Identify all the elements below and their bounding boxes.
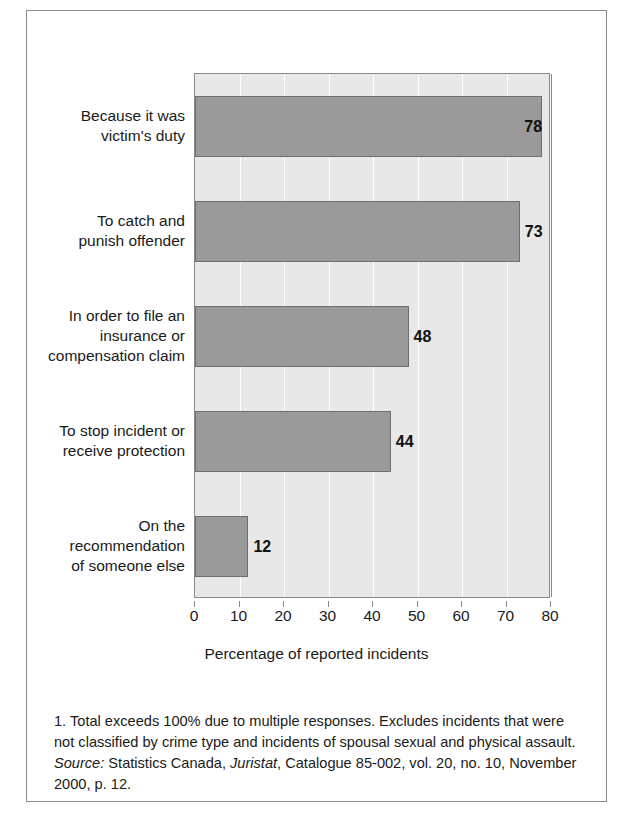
bar-value-label: 73 (520, 201, 543, 262)
category-label-line: On the (0, 516, 185, 536)
bar-band: 73 (195, 179, 549, 284)
bar[interactable] (195, 516, 248, 577)
bar[interactable] (195, 411, 391, 472)
x-tick-label: 50 (408, 607, 425, 625)
bar-value-label: 44 (391, 411, 414, 472)
x-tick-label: 10 (230, 607, 247, 625)
category-label: To stop incident orreceive protection (0, 421, 185, 461)
category-label-line: To stop incident or (0, 421, 185, 441)
bar-band: 48 (195, 284, 549, 389)
source-agency: Statistics Canada, (108, 755, 226, 771)
category-label-line: victim's duty (0, 126, 185, 146)
x-tick-label: 40 (363, 607, 380, 625)
category-label-line: insurance or (0, 326, 185, 346)
gridline-80 (551, 74, 552, 597)
category-label: To catch andpunish offender (0, 211, 185, 251)
bar-value-label: 78 (195, 96, 551, 157)
x-tick-label: 20 (274, 607, 291, 625)
footnote: 1. Total exceeds 100% due to multiple re… (54, 711, 584, 795)
footnote-text: Total exceeds 100% due to multiple respo… (54, 713, 576, 750)
bar[interactable] (195, 306, 409, 367)
figure-frame: 7873484412 Because it wasvictim's dutyTo… (26, 10, 607, 802)
x-tick-label: 60 (452, 607, 469, 625)
category-label-line: Because it was (0, 106, 185, 126)
category-label-line: of someone else (0, 556, 185, 576)
x-tick-label: 70 (497, 607, 514, 625)
source-label: Source: (54, 755, 104, 771)
category-label-line: To catch and (0, 211, 185, 231)
category-label-line: compensation claim (0, 346, 185, 366)
bar-band: 44 (195, 389, 549, 494)
category-label: Because it wasvictim's duty (0, 106, 185, 146)
publication-name: Juristat (230, 755, 277, 771)
category-label: In order to file aninsurance orcompensat… (0, 306, 185, 366)
bar[interactable] (195, 201, 520, 262)
bar-band: 12 (195, 494, 549, 599)
x-axis-tick-group: 01020304050607080 (194, 607, 550, 633)
plot-area: 7873484412 (194, 73, 550, 598)
category-label-line: punish offender (0, 231, 185, 251)
category-label-line: In order to file an (0, 306, 185, 326)
x-tick-label: 0 (190, 607, 199, 625)
bar-band: 78 (195, 74, 549, 179)
x-tick-label: 80 (541, 607, 558, 625)
category-label: On therecommendationof someone else (0, 516, 185, 576)
x-tick-label: 30 (319, 607, 336, 625)
chart-region: 7873484412 Because it wasvictim's dutyTo… (27, 11, 606, 671)
bar-value-label: 12 (248, 516, 271, 577)
bar-value-label: 48 (409, 306, 432, 367)
x-axis-title: Percentage of reported incidents (27, 645, 606, 663)
category-label-line: receive protection (0, 441, 185, 461)
category-label-line: recommendation (0, 536, 185, 556)
footnote-number: 1. (54, 713, 66, 729)
